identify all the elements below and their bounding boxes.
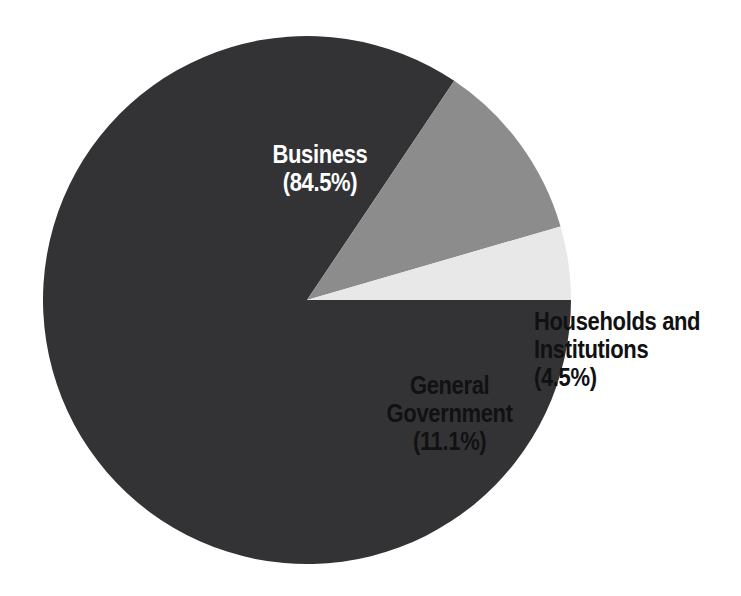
pie-slices <box>43 36 571 564</box>
pie-label-general-government: General Government (11.1%) <box>387 371 513 455</box>
pie-label-households-and-institutions: Households and Institutions (4.5%) <box>534 307 716 391</box>
pie-chart-graphic <box>0 0 741 596</box>
pie-chart-figure: Business (84.5%) General Government (11.… <box>0 0 741 596</box>
pie-label-business: Business (84.5%) <box>272 140 367 196</box>
